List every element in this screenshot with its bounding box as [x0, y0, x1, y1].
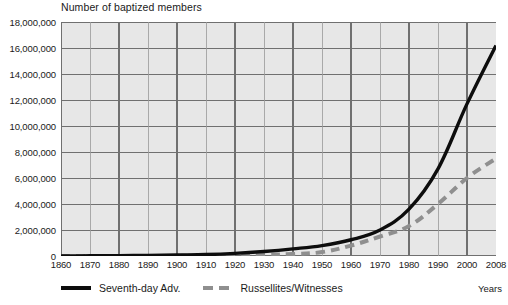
- x-tick-label: 1980: [399, 259, 419, 270]
- x-tick-label: 1890: [138, 259, 158, 270]
- x-tick-label: 2000: [457, 259, 477, 270]
- y-tick-label: 6,000,000: [0, 173, 56, 184]
- x-axis-caption: Years: [478, 283, 502, 294]
- x-tick-label: 1960: [341, 259, 361, 270]
- plot-svg: [61, 22, 496, 256]
- x-tick-label: 1970: [370, 259, 390, 270]
- y-axis-tick-labels: 02,000,0004,000,0006,000,0008,000,00010,…: [0, 22, 56, 256]
- legend-label: Russellites/Witnesses: [241, 282, 343, 294]
- y-tick-label: 0: [0, 251, 56, 262]
- y-tick-label: 14,000,000: [0, 69, 56, 80]
- y-tick-label: 2,000,000: [0, 225, 56, 236]
- dashed-line-swatch: [203, 283, 233, 293]
- y-tick-label: 18,000,000: [0, 17, 56, 28]
- x-tick-label: 1930: [254, 259, 274, 270]
- x-tick-label: 1870: [80, 259, 100, 270]
- chart-title: Number of baptized members: [61, 1, 202, 13]
- x-tick-label: 1950: [312, 259, 332, 270]
- x-tick-label: 2008: [486, 259, 506, 270]
- y-tick-label: 10,000,000: [0, 121, 56, 132]
- x-tick-label: 1910: [196, 259, 216, 270]
- x-tick-label: 1880: [109, 259, 129, 270]
- y-tick-label: 8,000,000: [0, 147, 56, 158]
- x-tick-label: 1860: [51, 259, 71, 270]
- x-axis-tick-labels: 1860187018801890190019101920193019401950…: [61, 259, 496, 273]
- legend-item-1[interactable]: Seventh-day Adv.: [61, 282, 181, 294]
- legend-item-2[interactable]: Russellites/Witnesses: [203, 282, 343, 294]
- chart-legend: Seventh-day Adv.Russellites/Witnesses: [61, 279, 343, 297]
- x-tick-label: 1900: [167, 259, 187, 270]
- x-tick-label: 1920: [225, 259, 245, 270]
- x-tick-label: 1940: [283, 259, 303, 270]
- y-tick-label: 16,000,000: [0, 43, 56, 54]
- legend-label: Seventh-day Adv.: [99, 282, 181, 294]
- x-tick-label: 1990: [428, 259, 448, 270]
- chart-container: Number of baptized members 02,000,0004,0…: [0, 0, 508, 305]
- solid-line-swatch: [61, 283, 91, 293]
- series-line-2: [61, 159, 496, 257]
- y-tick-label: 4,000,000: [0, 199, 56, 210]
- series-line-1: [61, 45, 496, 256]
- plot-area: [61, 22, 496, 256]
- y-tick-label: 12,000,000: [0, 95, 56, 106]
